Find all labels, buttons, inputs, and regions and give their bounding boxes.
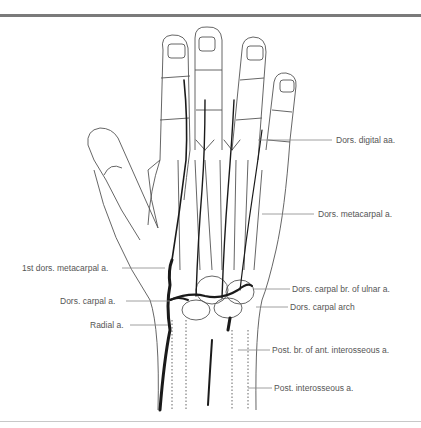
- hand-outline: [88, 27, 296, 410]
- label-dors-carpal-br-ulnar-a: Dors. carpal br. of ulnar a.: [292, 284, 390, 294]
- label-dors-metacarpal-a: Dors. metacarpal a.: [318, 209, 392, 219]
- label-post-interosseous-a: Post. interosseous a.: [274, 383, 353, 393]
- label-dors-digital-aa: Dors. digital aa.: [336, 135, 395, 145]
- label-post-br-ant-interosseous-a: Post. br. of ant. interosseous a.: [272, 345, 389, 355]
- label-dors-carpal-arch: Dors. carpal arch: [290, 302, 355, 312]
- label-radial-a: Radial a.: [90, 320, 124, 330]
- arteries: [160, 80, 262, 410]
- label-1st-dors-metacarpal-a: 1st dors. metacarpal a.: [22, 263, 108, 273]
- label-dors-carpal-a: Dors. carpal a.: [60, 296, 115, 306]
- bottom-border-rule: [0, 421, 421, 422]
